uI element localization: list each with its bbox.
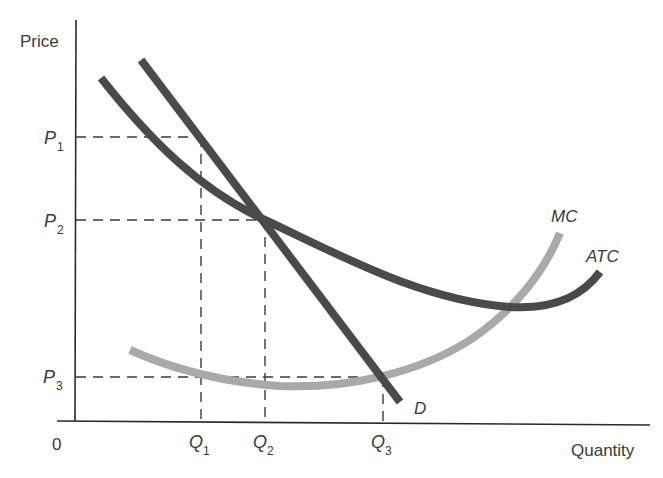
svg-text:1: 1 — [203, 444, 210, 458]
d-label: D — [414, 399, 426, 418]
mc-label: MC — [551, 207, 578, 226]
svg-text:Q: Q — [371, 432, 385, 452]
origin-label: 0 — [52, 435, 61, 454]
svg-text:1: 1 — [57, 140, 64, 154]
cost-demand-chart: Price Quantity 0 P 1 P 2 P 3 Q 1 Q 2 Q 3… — [0, 0, 663, 478]
svg-text:3: 3 — [56, 379, 63, 393]
svg-text:3: 3 — [385, 444, 392, 458]
svg-text:Q: Q — [253, 432, 267, 452]
svg-text:Q: Q — [189, 432, 203, 452]
svg-text:P: P — [43, 367, 55, 387]
x-axis — [57, 421, 650, 425]
demand-line — [141, 60, 400, 402]
x-axis-label: Quantity — [571, 441, 635, 460]
p2-label: P 2 — [44, 211, 64, 237]
q3-label: Q 3 — [371, 432, 392, 458]
svg-text:P: P — [44, 211, 56, 231]
svg-text:P: P — [44, 128, 56, 148]
q2-label: Q 2 — [253, 432, 274, 458]
p3-label: P 3 — [43, 367, 63, 393]
q1-label: Q 1 — [189, 432, 210, 458]
y-axis — [75, 20, 76, 421]
y-axis-label: Price — [20, 32, 59, 51]
svg-text:2: 2 — [267, 444, 274, 458]
atc-label: ATC — [585, 247, 619, 266]
svg-text:2: 2 — [57, 223, 64, 237]
p1-label: P 1 — [44, 128, 64, 154]
